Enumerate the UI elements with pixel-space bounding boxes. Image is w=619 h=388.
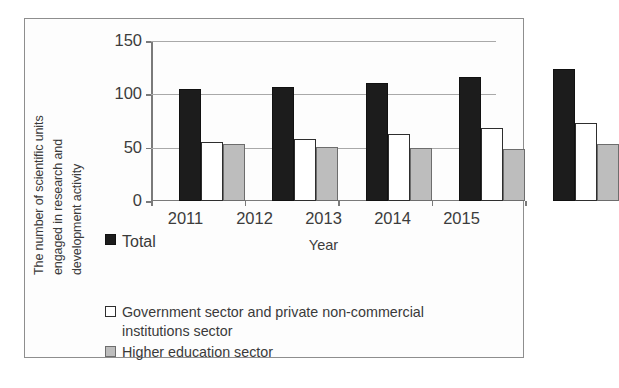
plot-area: 050100150 <box>151 41 496 201</box>
bar-edu-2013[interactable] <box>410 148 432 201</box>
bar-group <box>432 41 526 201</box>
chart-figure: The number of scientific units engaged i… <box>24 18 524 358</box>
y-axis-title-line-3: development activity <box>70 164 84 275</box>
bar-gov-2014[interactable] <box>481 128 503 201</box>
bar-edu-2012[interactable] <box>316 147 338 201</box>
white-outlined-square-icon <box>105 306 116 317</box>
bar-group <box>338 41 432 201</box>
legend-label-higher-education: Higher education sector <box>122 343 273 362</box>
legend-label-total: Total <box>122 231 156 253</box>
x-tick-label-2011: 2011 <box>151 209 220 228</box>
x-tick-mark <box>151 201 153 206</box>
x-tick-label-2015: 2015 <box>427 209 496 228</box>
bar-gov-2015[interactable] <box>575 123 597 201</box>
bar-gov-2012[interactable] <box>294 139 316 201</box>
y-axis-title-line-1: The number of scientific units <box>32 115 46 275</box>
x-tick-mark <box>338 201 340 206</box>
x-tick-mark <box>525 201 527 206</box>
y-tick-label: 150 <box>114 31 142 50</box>
bar-gov-2011[interactable] <box>201 142 223 201</box>
bar-total-2011[interactable] <box>179 89 201 201</box>
y-tick-label: 100 <box>114 84 142 103</box>
bar-total-2013[interactable] <box>366 83 388 201</box>
bar-edu-2015[interactable] <box>597 144 619 201</box>
bar-total-2014[interactable] <box>459 77 481 201</box>
bar-group <box>245 41 339 201</box>
bar-groups <box>151 41 496 201</box>
x-tick-label-2014: 2014 <box>358 209 427 228</box>
x-tick-label-2013: 2013 <box>289 209 358 228</box>
y-tick-label: 50 <box>124 138 142 157</box>
bar-gov-2013[interactable] <box>388 134 410 201</box>
y-axis-title: The number of scientific units engaged i… <box>31 25 97 275</box>
legend-label-government: Government sector and private non-commer… <box>122 303 482 342</box>
x-tick-mark <box>432 201 434 206</box>
bar-total-2015[interactable] <box>553 69 575 201</box>
bar-edu-2014[interactable] <box>503 149 525 201</box>
bar-group <box>151 41 245 201</box>
y-axis-title-line-2: engaged in research and <box>51 139 65 275</box>
y-tick-label: 0 <box>133 191 142 210</box>
black-filled-square-icon <box>105 234 116 245</box>
gray-filled-square-icon <box>105 346 116 357</box>
x-tick-mark <box>245 201 247 206</box>
chart-legend: Total Government sector and private non-… <box>105 231 505 364</box>
legend-item-total: Total <box>105 231 505 253</box>
bar-total-2012[interactable] <box>272 87 294 201</box>
bar-edu-2011[interactable] <box>223 144 245 201</box>
x-axis-tick-labels: 20112012201320142015 <box>151 209 496 228</box>
legend-item-higher-education: Higher education sector <box>105 343 505 362</box>
legend-item-government: Government sector and private non-commer… <box>105 303 505 342</box>
x-tick-label-2012: 2012 <box>220 209 289 228</box>
bar-group <box>525 41 619 201</box>
